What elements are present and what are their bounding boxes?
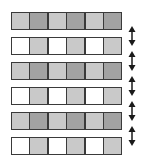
strip-cell-dark bbox=[104, 63, 121, 79]
strip-cell-light bbox=[86, 13, 103, 29]
strip-cell-light bbox=[104, 88, 121, 104]
strip-cell-light bbox=[12, 113, 29, 129]
cell-strip-row bbox=[11, 37, 122, 55]
strip-cell-light bbox=[104, 138, 121, 154]
strip-cell-light bbox=[67, 38, 84, 54]
strip-cell-light bbox=[12, 63, 29, 79]
double-arrow-vertical-icon bbox=[128, 101, 136, 121]
double-arrow-vertical-icon bbox=[128, 26, 136, 46]
strip-cell-dark bbox=[67, 63, 84, 79]
cell-strip-row bbox=[11, 87, 122, 105]
strip-cell-light bbox=[49, 63, 66, 79]
strip-cell-white bbox=[49, 38, 66, 54]
strip-cell-light bbox=[12, 13, 29, 29]
strip-cell-white bbox=[86, 38, 103, 54]
strip-cell-white bbox=[86, 138, 103, 154]
strip-cell-dark bbox=[30, 113, 47, 129]
strip-cell-dark bbox=[104, 13, 121, 29]
strip-cell-light bbox=[67, 138, 84, 154]
strip-cell-dark bbox=[104, 113, 121, 129]
strip-cell-light bbox=[30, 138, 47, 154]
strip-cell-white bbox=[12, 38, 29, 54]
strip-cell-white bbox=[12, 138, 29, 154]
strip-cell-light bbox=[104, 38, 121, 54]
strip-cell-dark bbox=[30, 13, 47, 29]
strip-cell-dark bbox=[67, 13, 84, 29]
cell-strip-row bbox=[11, 62, 122, 80]
double-arrow-vertical-icon bbox=[128, 126, 136, 146]
double-arrow-vertical-icon bbox=[128, 76, 136, 96]
cell-strip-row bbox=[11, 112, 122, 130]
strip-cell-light bbox=[30, 38, 47, 54]
strip-cell-light bbox=[30, 88, 47, 104]
strip-cell-light bbox=[49, 113, 66, 129]
cell-strip-row bbox=[11, 137, 122, 155]
strip-cell-light bbox=[86, 63, 103, 79]
strip-cell-white bbox=[12, 88, 29, 104]
strip-cell-light bbox=[67, 88, 84, 104]
strip-cell-white bbox=[49, 88, 66, 104]
strip-cell-light bbox=[49, 13, 66, 29]
strip-cell-white bbox=[86, 88, 103, 104]
strip-cell-dark bbox=[67, 113, 84, 129]
double-arrow-vertical-icon bbox=[128, 51, 136, 71]
cell-strip-row bbox=[11, 12, 122, 30]
strip-cell-light bbox=[86, 113, 103, 129]
strip-cell-white bbox=[49, 138, 66, 154]
strip-cell-dark bbox=[30, 63, 47, 79]
